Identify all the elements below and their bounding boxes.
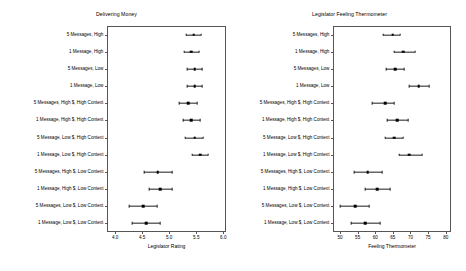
y-axis-tick-label: 5 Messages, High $, High Context (260, 101, 330, 106)
y-axis-tick-label: 5 Messages, High (67, 32, 104, 37)
confidence-interval-cap (160, 222, 161, 225)
data-point (384, 102, 387, 105)
y-axis-tick-label: 5 Messages, Low $, Low Context (262, 204, 330, 209)
confidence-interval-cap (380, 222, 381, 225)
confidence-interval-cap (185, 136, 186, 139)
x-axis-tick (393, 232, 394, 234)
confidence-interval-cap (394, 50, 395, 53)
x-axis-tick (428, 232, 429, 234)
x-axis-tick-label: 70 (408, 235, 413, 240)
confidence-interval-cap (383, 33, 384, 36)
confidence-interval-cap (389, 188, 390, 191)
confidence-interval-cap (428, 85, 429, 88)
confidence-interval-cap (157, 205, 158, 208)
x-axis-tick (375, 232, 376, 234)
data-point (364, 222, 367, 225)
y-axis-tick-label: 5 Messages, High $, High Context (34, 101, 104, 106)
y-axis-tick-label: 5 Messages, Low (294, 66, 330, 71)
confidence-interval-cap (187, 68, 188, 71)
confidence-interval-cap (192, 153, 193, 156)
y-axis-tick-label: 1 Message, High (69, 49, 103, 54)
y-axis-tick-label: 5 Messages, High $, Low Context (35, 169, 104, 174)
x-axis-tick (340, 232, 341, 234)
data-point (417, 85, 420, 88)
x-axis-tick-label: 60 (373, 235, 378, 240)
x-axis-tick-label: 65 (390, 235, 395, 240)
y-axis-tick-label: 5 Message, Low $, High Context (37, 135, 103, 140)
data-point (142, 205, 145, 208)
y-axis-tick-label: 1 Message, Low $, Low Context (38, 221, 103, 226)
confidence-interval-cap (179, 102, 180, 105)
confidence-interval-cap (385, 68, 386, 71)
data-point (392, 33, 395, 36)
confidence-interval-cap (199, 50, 200, 53)
confidence-interval-cap (369, 205, 370, 208)
y-axis-tick-label: 1 Message, High $, Low Context (263, 186, 329, 191)
confidence-interval-cap (182, 119, 183, 122)
y-axis-tick-label: 1 Message, High (295, 49, 329, 54)
y-axis-tick-label: 5 Messages, High $, Low Context (261, 169, 330, 174)
confidence-interval-cap (202, 85, 203, 88)
x-axis-tick-label: 5.0 (166, 235, 172, 240)
confidence-interval-cap (421, 153, 422, 156)
data-point (199, 153, 202, 156)
confidence-interval-cap (409, 85, 410, 88)
confidence-interval-cap (172, 188, 173, 191)
x-axis-tick (358, 232, 359, 234)
confidence-interval-cap (143, 171, 144, 174)
data-point (396, 119, 399, 122)
panel-title: Legislator Feeling Thermometer (233, 11, 466, 17)
confidence-interval-cap (408, 119, 409, 122)
y-axis-tick-label: 5 Messages, High (293, 32, 330, 37)
x-axis-tick (142, 232, 143, 234)
x-axis-tick (410, 232, 411, 234)
x-axis-tick (115, 232, 116, 234)
confidence-interval-cap (200, 119, 201, 122)
x-axis-tick-label: 55 (355, 235, 360, 240)
x-axis-tick (223, 232, 224, 234)
data-point (159, 188, 162, 191)
confidence-interval-cap (382, 171, 383, 174)
confidence-interval-cap (354, 171, 355, 174)
confidence-interval-cap (399, 153, 400, 156)
confidence-interval-cap (201, 33, 202, 36)
x-axis-tick-label: 5.5 (193, 235, 199, 240)
x-axis-title: Feeling Thermometer (368, 243, 416, 249)
confidence-interval-cap (132, 222, 133, 225)
data-point (193, 85, 196, 88)
data-point (394, 68, 397, 71)
data-point (190, 50, 193, 53)
y-axis-tick-label: 5 Messages, Low (68, 66, 104, 71)
confidence-interval-cap (393, 102, 394, 105)
y-axis-tick-label: 1 Message, Low $, High Context (37, 152, 103, 157)
confidence-interval-cap (172, 171, 173, 174)
data-point (190, 119, 193, 122)
x-axis-tick (169, 232, 170, 234)
figure-canvas: Delivering Money 5 Messages, High1 Messa… (0, 0, 466, 271)
confidence-interval-cap (187, 85, 188, 88)
data-point (193, 68, 196, 71)
confidence-interval-cap (196, 102, 197, 105)
x-axis-tick-label: 4.5 (139, 235, 145, 240)
confidence-interval-cap (203, 136, 204, 139)
confidence-interval-cap (184, 50, 185, 53)
x-axis-tick-label: 6.0 (220, 235, 226, 240)
plot-frame (333, 26, 451, 232)
confidence-interval-cap (148, 188, 149, 191)
data-point (192, 33, 195, 36)
y-axis-tick-label: 1 Message, Low $, High Context (263, 152, 329, 157)
confidence-interval-cap (400, 33, 401, 36)
confidence-interval-cap (387, 119, 388, 122)
confidence-interval-cap (365, 188, 366, 191)
plot-frame (107, 26, 226, 232)
confidence-interval-cap (385, 136, 386, 139)
confidence-interval-cap (414, 50, 415, 53)
confidence-interval-cap (186, 33, 187, 36)
y-axis-tick-label: 5 Message, Low $, High Context (263, 135, 329, 140)
x-axis-tick-label: 50 (337, 235, 342, 240)
data-point (367, 171, 370, 174)
confidence-interval-cap (340, 205, 341, 208)
panel-title: Delivering Money (0, 11, 233, 17)
y-axis-tick-label: 5 Messages, Low $, Low Context (36, 204, 104, 209)
panel-feeling-thermometer: Legislator Feeling Thermometer 5 Message… (233, 0, 466, 271)
